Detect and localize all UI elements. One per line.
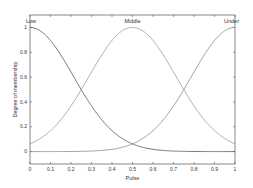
y-tick-label: 0 <box>24 148 27 154</box>
y-tick-label: 0.4 <box>20 99 27 105</box>
x-tick-label: 0.4 <box>109 166 116 172</box>
x-axis-label: Pulse <box>126 175 140 181</box>
x-tick-label: 0.3 <box>88 166 95 172</box>
plot-area-frame <box>30 15 235 164</box>
y-tick-label: 1 <box>24 24 27 30</box>
y-tick-label: 0.2 <box>20 123 27 129</box>
x-tick-label: 0 <box>29 166 32 172</box>
y-tick-label: 0.6 <box>20 74 27 80</box>
x-tick-label: 1 <box>234 166 237 172</box>
x-tick-label: 0.6 <box>150 166 157 172</box>
label-middle: Middle <box>124 18 140 24</box>
x-tick-label: 0.7 <box>170 166 177 172</box>
x-tick-label: 0.9 <box>211 166 218 172</box>
x-tick-label: 0.2 <box>68 166 75 172</box>
y-tick-label: 0.8 <box>20 49 27 55</box>
x-tick-label: 0.5 <box>129 166 136 172</box>
x-tick-label: 0.8 <box>191 166 198 172</box>
x-tick-label: 0.1 <box>47 166 54 172</box>
membership-function-chart: 00.10.20.30.40.50.60.70.80.91 00.20.40.6… <box>0 0 253 188</box>
y-axis-label: Degree of membership <box>12 62 18 118</box>
label-under: Under <box>224 18 239 24</box>
label-low: Low <box>26 18 36 24</box>
